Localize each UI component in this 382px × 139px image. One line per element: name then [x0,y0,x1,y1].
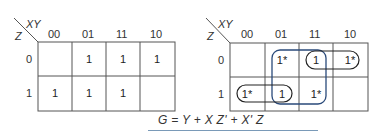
row-label: 0 [26,54,32,65]
col-label: 11 [116,29,127,40]
kmap-right: XY Z 00 01 11 10 0 1 1* 1 1* 1* 1 1* [192,0,382,115]
row-label: 0 [218,55,224,66]
col-label: 10 [344,29,356,40]
row-label: 1 [218,89,224,100]
simplified-equation: G = Y + X Z' + X' Z [158,113,264,127]
kmap-left: XY Z 00 01 11 10 0 1 1 1 1 1 1 1 [0,0,191,115]
kmap-cell: 1 [299,43,333,77]
kmap-cell: 1 [140,42,174,76]
row-var-label: Z [207,31,214,42]
row-label: 1 [26,88,32,99]
equation-underline [148,130,318,131]
col-label: 01 [275,29,287,40]
kmap-cell: 1* [265,43,299,77]
kmap-cell: 1 [265,77,299,111]
col-var-label: XY [26,19,41,30]
col-label: 11 [309,29,320,40]
kmap-cell [38,42,72,76]
kmap-cell: 1 [72,42,106,76]
col-label: 00 [48,29,60,40]
col-label: 01 [82,29,94,40]
kmap-cell: 1 [106,42,140,76]
kmap-cell: 1* [230,77,264,111]
kmap-cell [333,77,367,111]
col-label: 10 [150,29,162,40]
kmap-cell: 1 [72,76,106,110]
col-var-label: XY [218,19,233,30]
kmap-cell: 1* [299,77,333,111]
row-var-label: Z [15,31,22,42]
kmap-cell: 1 [106,76,140,110]
kmap-cell: 1* [333,43,367,77]
kmap-cell [140,76,174,110]
kmap-cell [230,43,264,77]
kmap-cell: 1 [38,76,72,110]
col-label: 00 [241,29,253,40]
